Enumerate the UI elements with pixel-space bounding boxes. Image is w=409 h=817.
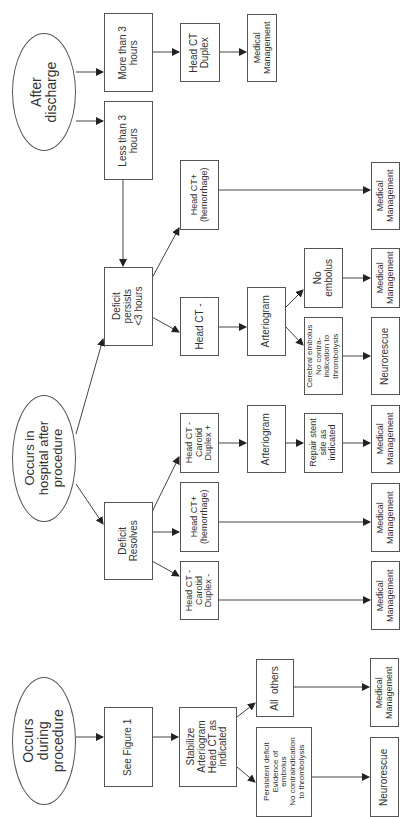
node-label: Neurorescue bbox=[379, 748, 390, 805]
node-head-ct-plus-hemorrhage: Head CT+ (hemorrhage) bbox=[180, 160, 219, 230]
node-arteriogram: Arteriogram bbox=[247, 287, 286, 356]
node-stabilize: Stabilize Arteriogram Head CT as indicat… bbox=[179, 707, 237, 787]
node-label: Medical Management bbox=[376, 252, 395, 305]
node-label: Occurs during procedure bbox=[21, 709, 66, 772]
node-label: Medical Management bbox=[376, 413, 395, 466]
node-label: After discharge bbox=[29, 62, 59, 123]
node-neurorescue: Neurorescue bbox=[370, 737, 399, 817]
node-deficit-resolves: Deficit Resolves bbox=[104, 502, 153, 580]
node-label: See Figure 1 bbox=[123, 718, 134, 775]
node-persistent-deficit: Persistent deficit Evidence of embolus N… bbox=[256, 727, 312, 817]
node-medical-management: Medical Management bbox=[371, 483, 400, 552]
node-occurs-during-procedure: Occurs during procedure bbox=[12, 677, 76, 805]
node-label: Medical Management bbox=[376, 569, 395, 622]
node-deficit-persists: Deficit persists <3 hours bbox=[104, 267, 153, 346]
node-more-than-3-hours: More than 3 hours bbox=[104, 13, 153, 92]
node-label: Head CT - Carotid Duplex - bbox=[185, 570, 214, 611]
node-label: Head CT - Carotid Duplex + bbox=[185, 422, 214, 463]
node-arteriogram: Arteriogram bbox=[247, 405, 286, 473]
node-label: Deficit Resolves bbox=[118, 520, 140, 561]
node-label: Head CT+ (hemorrhage) bbox=[190, 490, 209, 545]
node-label: Neurorescue bbox=[380, 327, 391, 384]
node-less-than-3-hours: Less than 3 hours bbox=[104, 101, 153, 180]
node-label: Head CT+ (hemorrhage) bbox=[190, 168, 209, 223]
node-label: Less than 3 hours bbox=[118, 115, 140, 167]
node-head-ct-minus-duplex-minus: Head CT - Carotid Duplex - bbox=[180, 561, 219, 620]
node-label: Cerebral embolus No contra- indication t… bbox=[306, 324, 341, 387]
node-neurorescue: Neurorescue bbox=[371, 317, 400, 395]
node-medical-management: Medical Management bbox=[370, 658, 399, 727]
node-label: Stabilize Arteriogram Head CT as indicat… bbox=[186, 720, 229, 773]
node-label: Medical Management bbox=[376, 491, 395, 544]
node-label: Medical Management bbox=[252, 22, 271, 75]
node-label: Head CT - bbox=[194, 304, 205, 350]
node-label: Occurs in hospital after procedure bbox=[23, 421, 65, 495]
node-label: Medical Management bbox=[376, 170, 395, 223]
node-head-ct-duplex: Head CT Duplex bbox=[180, 23, 220, 82]
node-after-discharge: After discharge bbox=[12, 33, 76, 151]
node-occurs-in-hospital: Occurs in hospital after procedure bbox=[12, 395, 76, 522]
node-label: Arteriogram bbox=[261, 295, 272, 347]
node-cerebral-embolus: Cerebral embolus No contra- indication t… bbox=[304, 317, 343, 395]
node-repair-stent: Repair stent site as indicated bbox=[304, 413, 343, 473]
node-label: Deficit persists <3 hours bbox=[112, 287, 144, 326]
node-medical-management: Medical Management bbox=[371, 162, 400, 230]
node-see-figure-1: See Figure 1 bbox=[104, 707, 153, 787]
node-label: More than 3 hours bbox=[118, 26, 140, 79]
node-label: Medical Management bbox=[375, 666, 394, 719]
node-no-embolus: No embolus bbox=[304, 248, 343, 308]
node-all-others: All others bbox=[256, 659, 294, 717]
node-label: Persistent deficit Evidence of embolus N… bbox=[262, 738, 305, 806]
node-medical-management: Medical Management bbox=[371, 248, 400, 308]
node-medical-management: Medical Management bbox=[371, 561, 400, 630]
node-label: No embolus bbox=[313, 259, 335, 297]
node-head-ct-minus-duplex-plus: Head CT - Carotid Duplex + bbox=[180, 413, 219, 473]
node-label: All others bbox=[270, 666, 281, 710]
node-head-ct-plus-hemorrhage: Head CT+ (hemorrhage) bbox=[180, 482, 219, 552]
node-medical-management: Medical Management bbox=[371, 405, 400, 473]
node-label: Arteriogram bbox=[261, 413, 272, 465]
node-label: Head CT Duplex bbox=[189, 32, 211, 72]
node-medical-management: Medical Management bbox=[247, 14, 277, 82]
node-label: Repair stent site as indicated bbox=[309, 419, 338, 468]
node-head-ct-minus: Head CT - bbox=[180, 297, 219, 356]
